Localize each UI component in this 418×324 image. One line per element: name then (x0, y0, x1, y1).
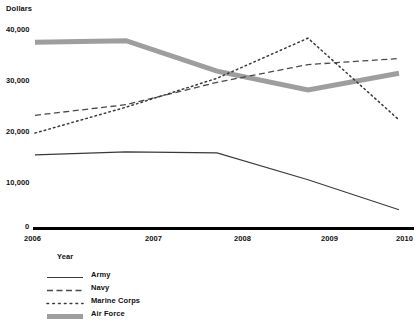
y-axis-tick-label: 20,000 (6, 127, 30, 136)
legend-swatch-dotted-icon (46, 295, 84, 306)
x-axis-tick-label: 2008 (234, 234, 251, 243)
legend-label-army: Army (91, 270, 111, 279)
legend-label-navy: Navy (91, 283, 109, 292)
chart-legend: Army Navy Marine Corps (46, 268, 236, 320)
y-axis-tick-label: 0 (25, 222, 29, 231)
series-line-marine-corps (35, 38, 399, 133)
x-axis-tick-label: 2006 (24, 234, 41, 243)
y-axis-title: Dollars (6, 4, 32, 13)
legend-swatch-thick-gray-icon (46, 308, 84, 319)
series-line-army (35, 152, 399, 210)
series-line-air-force (35, 41, 399, 90)
legend-item-air-force: Air Force (46, 307, 236, 320)
chart-figure: Dollars 40,000 30,000 20,000 10,000 0 20… (0, 0, 418, 324)
x-axis-title: Year (57, 252, 73, 261)
legend-item-marine-corps: Marine Corps (46, 294, 236, 307)
legend-item-army: Army (46, 268, 236, 281)
legend-swatch-solid-icon (46, 269, 84, 280)
legend-label-marine-corps: Marine Corps (91, 296, 140, 305)
legend-swatch-dashed-icon (46, 282, 84, 293)
y-axis-tick-label: 10,000 (6, 178, 30, 187)
x-axis-tick-label: 2010 (396, 234, 413, 243)
legend-label-air-force: Air Force (91, 309, 125, 318)
x-axis-tick-label: 2009 (321, 234, 338, 243)
y-axis-tick-label: 40,000 (6, 25, 30, 34)
x-axis-tick-label: 2007 (145, 234, 162, 243)
series-line-navy (35, 58, 399, 115)
legend-item-navy: Navy (46, 281, 236, 294)
y-axis-tick-label: 30,000 (6, 76, 30, 85)
